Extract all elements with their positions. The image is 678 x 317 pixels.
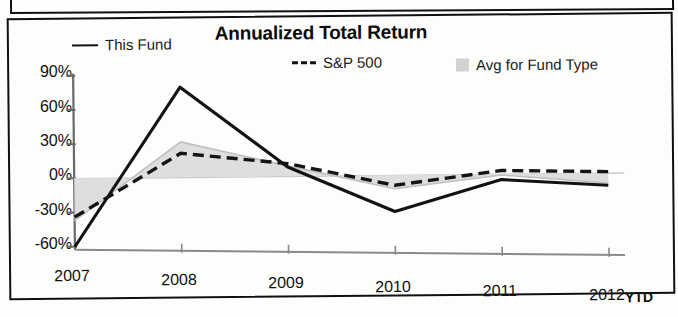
x-axis-line [75, 244, 625, 261]
series-sp500-line [74, 149, 609, 217]
scanned-page: Annualized Total Return This Fund S&P 50… [0, 0, 678, 317]
plot-svg [0, 0, 678, 317]
y-axis-line [73, 74, 75, 250]
series-avg-fund-type-line [74, 137, 609, 220]
x-axis-ticks [182, 239, 609, 261]
series-avg-fund-type-band [74, 137, 609, 220]
chart-container: Annualized Total Return This Fund S&P 50… [0, 0, 678, 317]
